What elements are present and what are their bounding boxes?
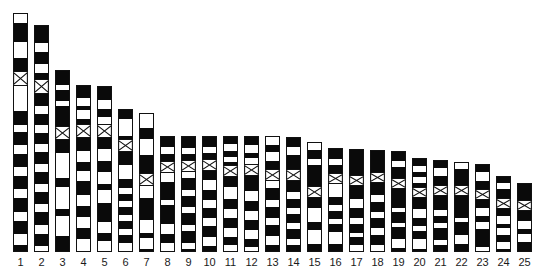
chromosome-ideogram-figure: 1234567891011121314151617181920212223242… (0, 0, 560, 280)
chromosome-label-25: 25 (512, 256, 537, 268)
chromosome-labels-row: 1234567891011121314151617181920212223242… (0, 0, 560, 280)
